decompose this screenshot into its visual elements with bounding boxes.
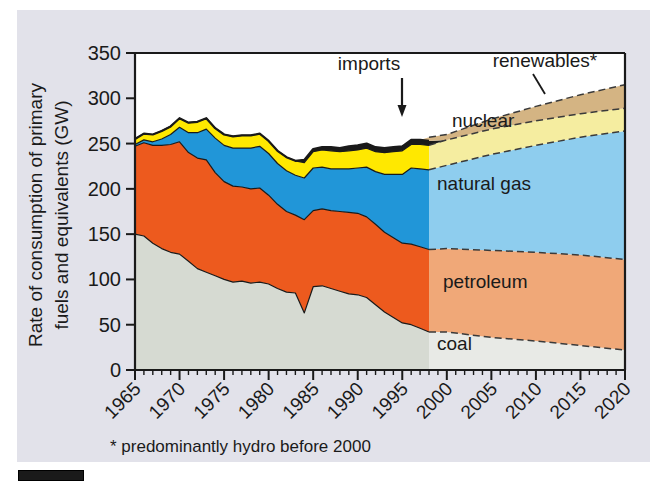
x-tick-labels: 1965197019751980198519901995200020052010… (100, 378, 635, 423)
y-tick-label-100: 100 (88, 268, 121, 290)
y-tick-label-0: 0 (110, 359, 121, 381)
y-tick-labels: 050100150200250300350 (88, 42, 121, 381)
y-tick-label-150: 150 (88, 223, 121, 245)
x-tick-label-2020: 2020 (590, 378, 635, 423)
series-label-nuclear: nuclear (452, 110, 515, 131)
x-tick-label-1990: 1990 (323, 378, 368, 423)
series-label-coal: coal (437, 333, 472, 354)
y-tick-label-200: 200 (88, 178, 121, 200)
x-tick-label-1980: 1980 (234, 378, 279, 423)
y-tick-label-350: 350 (88, 42, 121, 64)
x-tick-label-2010: 2010 (501, 378, 546, 423)
x-tick-label-1995: 1995 (367, 378, 412, 423)
y-tick-label-300: 300 (88, 87, 121, 109)
x-tick-label-2015: 2015 (546, 378, 591, 423)
stacked-area-chart: 050100150200250300350 196519701975198019… (0, 0, 666, 489)
scale-bar (18, 470, 84, 481)
series-label-petroleum: petroleum (443, 271, 528, 292)
x-tick-label-1985: 1985 (278, 378, 323, 423)
y-axis-title-line1: Rate of consumption of primary (25, 83, 46, 348)
y-tick-label-50: 50 (99, 314, 121, 336)
y-axis-title-line2: fuels and equivalents (GW) (51, 100, 72, 329)
x-tick-label-1975: 1975 (189, 378, 234, 423)
x-tick-label-1965: 1965 (100, 378, 145, 423)
y-axis-title: Rate of consumption of primary fuels and… (25, 83, 72, 348)
x-tick-label-2000: 2000 (412, 378, 457, 423)
series-label-natural-gas: natural gas (437, 173, 531, 194)
footnote-text: * predominantly hydro before 2000 (110, 437, 371, 456)
imports-callout-label: imports (338, 53, 400, 74)
figure-root: 050100150200250300350 196519701975198019… (0, 0, 666, 489)
y-tick-label-250: 250 (88, 133, 121, 155)
x-tick-label-2005: 2005 (456, 378, 501, 423)
renewables-callout-label: renewables* (493, 50, 598, 71)
x-tick-label-1970: 1970 (145, 378, 190, 423)
